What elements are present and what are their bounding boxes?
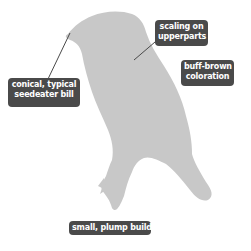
label-bill: conical, typical seedeater bill [8,78,80,107]
label-scaling-line-2: upperparts [158,32,205,42]
label-coloration-line-2: coloration [184,72,231,82]
bird-diagram: conical, typical seedeater bill scaling … [0,0,251,251]
label-bill-line-2: seedeater bill [11,90,77,100]
label-coloration-line-1: buff-brown [184,62,231,72]
label-bill-line-1: conical, typical [11,80,77,90]
label-coloration: buff-brown coloration [181,60,234,86]
label-build: small, plump build [69,221,151,235]
label-scaling: scaling on upperparts [155,20,208,46]
label-scaling-line-1: scaling on [158,22,205,32]
label-build-line-1: small, plump build [72,223,148,233]
bird-silhouette [0,0,251,251]
